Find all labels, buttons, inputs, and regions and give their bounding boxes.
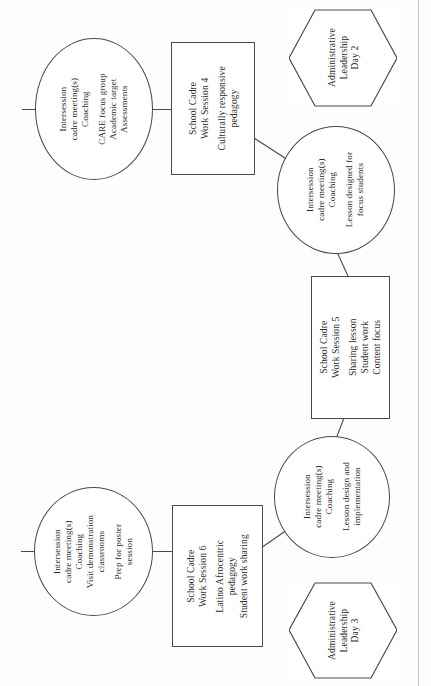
node-admin-leadership-day-3-label: Administrative Leadership Day 3 [325,601,360,660]
text-line: Administrative [325,29,337,88]
text-line: Prep for poster [113,515,124,588]
node-intersession-1[interactable]: Intersession cadre meeting(s) Coaching C… [35,38,153,180]
text-line: Coaching [74,515,85,588]
text-line: pedagogy [226,534,238,618]
text-line: focus students [355,152,366,227]
text-line: cadre meeting(s) [317,152,328,227]
text-line: School Cadre [187,66,199,150]
text-line: Leadership [337,601,349,660]
text-line: Lesson designed for [344,152,355,227]
text-line: Intersession [305,152,316,227]
text-line: Intersession [58,73,69,144]
connector-intersession2-to-session5 [337,252,359,278]
text-line: Intersession [301,463,312,532]
text-line: Visit demonstration [85,515,96,588]
text-line: School Cadre [318,317,330,378]
text-line: Leadership [337,29,349,88]
text-line: cadre meeting(s) [63,515,74,588]
text-line: Lesson design and [340,463,351,532]
node-work-session-4[interactable]: School Cadre Work Session 4 Culturally r… [171,42,255,175]
text-gap [342,317,348,378]
diagram-page: Intersession cadre meeting(s) Coaching C… [0,0,431,686]
node-work-session-4-label: School Cadre Work Session 4 Culturally r… [187,66,240,150]
text-line: Sharing lesson [348,317,360,378]
text-line: Coaching [80,73,91,144]
text-line: Coaching [324,463,335,532]
text-line: classrooms [96,515,107,588]
text-line: Work Session 4 [198,66,210,150]
node-admin-leadership-day-2[interactable]: Administrative Leadership Day 2 [289,8,397,108]
text-line: session [124,515,135,588]
text-gap [335,463,341,532]
node-intersession-4-label: Intersession cadre meeting(s) Coaching V… [52,515,135,588]
text-line: Coaching [328,152,339,227]
text-gap [107,515,113,588]
node-intersession-2[interactable]: Intersession cadre meeting(s) Coaching L… [277,126,395,254]
node-work-session-5[interactable]: School Cadre Work Session 5 Sharing less… [311,276,390,419]
node-intersession-3[interactable]: Intersession cadre meeting(s) Coaching L… [274,436,390,558]
connector-session6-to-intersession4 [153,551,172,552]
text-line: Student work sharing [238,534,250,618]
node-work-session-6[interactable]: School Cadre Work Session 6 Latino Afroc… [172,505,263,647]
text-line: Academic target [108,73,119,144]
text-line: Assessments [119,73,130,144]
text-line: implementation [351,463,362,532]
text-line: cadre meeting(s) [313,463,324,532]
text-line: CARE focus group [97,73,108,144]
connector-exit-stub-bottom [21,551,35,552]
node-work-session-6-label: School Cadre Work Session 6 Latino Afroc… [185,534,249,618]
text-line: Culturally responsive [216,66,228,150]
text-line: Intersession [52,515,63,588]
node-intersession-4[interactable]: Intersession cadre meeting(s) Coaching V… [34,487,153,616]
text-line: Day 3 [349,601,361,660]
connector-intersession1-to-session4 [152,109,171,110]
text-line: School Cadre [185,534,197,618]
node-admin-leadership-day-3[interactable]: Administrative Leadership Day 3 [289,581,397,680]
node-admin-leadership-day-2-label: Administrative Leadership Day 2 [325,29,360,88]
text-line: Latino Afrocentric [215,534,227,618]
text-line: Work Session 6 [197,534,209,618]
text-line: Content focus [371,317,383,378]
page-edge-line [418,0,419,686]
text-line: Work Session 5 [330,317,342,378]
text-line: Administrative [325,601,337,660]
node-intersession-1-label: Intersession cadre meeting(s) Coaching C… [58,73,130,144]
text-gap [210,66,216,150]
text-line: Student work [359,317,371,378]
node-intersession-3-label: Intersession cadre meeting(s) Coaching L… [301,463,362,532]
text-line: cadre meeting(s) [69,73,80,144]
node-intersession-2-label: Intersession cadre meeting(s) Coaching L… [305,152,366,227]
text-line: Day 2 [349,29,361,88]
node-work-session-5-label: School Cadre Work Session 5 Sharing less… [318,317,382,378]
connector-entry-stub-top [22,109,36,110]
text-line: pedagogy [228,66,240,150]
